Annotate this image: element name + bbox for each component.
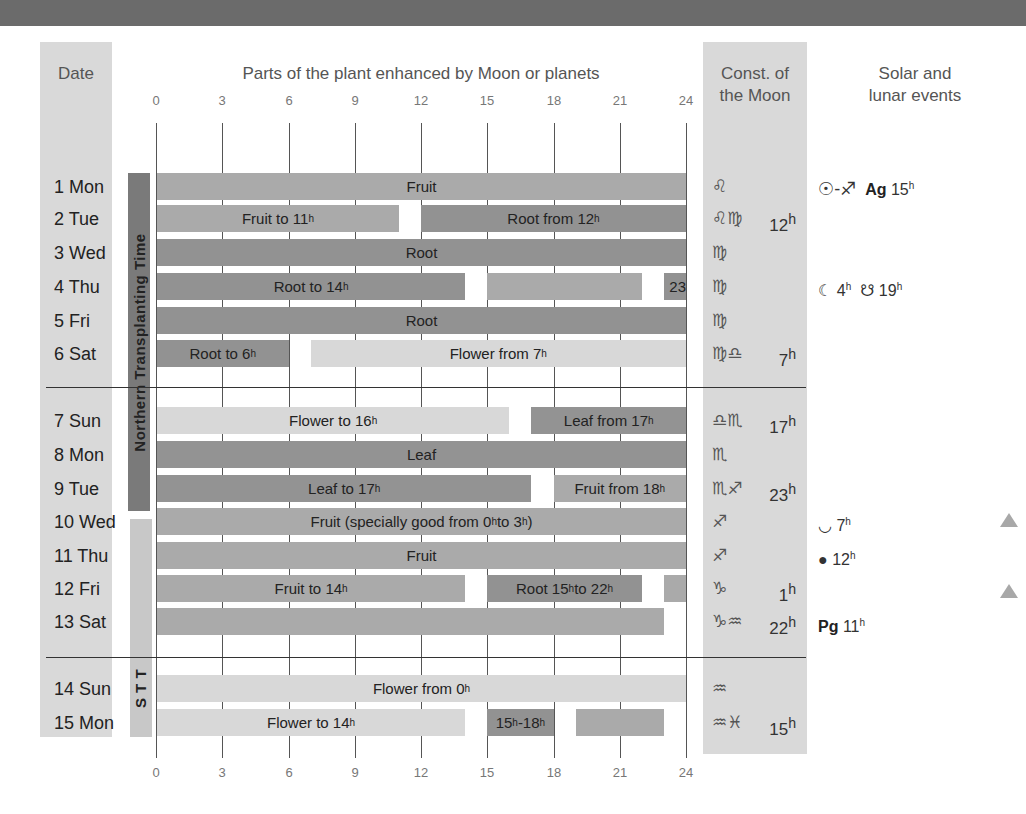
zodiac-sign-icon: ♍	[712, 277, 727, 297]
x-tick-label-bottom: 6	[274, 765, 304, 780]
northern-transplanting-label: Northern Transplanting Time	[131, 233, 148, 451]
constellation-change-time: 15h	[769, 713, 796, 740]
constellation-change-time: 17h	[769, 411, 796, 438]
perigee-pg-label: Pg	[818, 618, 838, 635]
date-label: 12 Fri	[54, 579, 100, 599]
grid-line	[686, 123, 687, 758]
bar-root: Root to 6h	[157, 340, 289, 367]
zodiac-sign-icon: ♏♐	[712, 479, 742, 506]
x-tick-label-top: 21	[605, 93, 635, 108]
date-label: 3 Wed	[54, 243, 106, 263]
events-header-line1: Solar and	[830, 63, 1000, 85]
x-tick-label-top: 15	[472, 93, 502, 108]
date-column-bg	[40, 42, 112, 737]
zodiac-sign-icon: ♎♏	[712, 411, 742, 438]
constellation-change-time: 12h	[769, 209, 796, 236]
stt-label: S T T	[133, 669, 150, 708]
bar-fruit: Fruit (specially good from 0h to 3h )	[157, 508, 686, 535]
zodiac-sign-icon: ♐	[712, 512, 727, 532]
date-label: 5 Fri	[54, 311, 90, 331]
bar-root: 15h-18h	[487, 709, 553, 736]
date-label: 14 Sun	[54, 679, 111, 699]
event-time: 12	[832, 551, 850, 568]
hour-sup: h	[850, 550, 856, 561]
date-label: 10 Wed	[54, 512, 116, 532]
x-tick-label-bottom: 15	[472, 765, 502, 780]
zodiac-sign-icon: ♍	[712, 243, 727, 263]
bar-fruit	[157, 608, 664, 635]
moon-constellation: ♑♒22h	[712, 612, 796, 639]
bar-leaf: Leaf	[157, 441, 686, 468]
x-tick-label-top: 9	[340, 93, 370, 108]
week-separator-line	[46, 657, 806, 658]
x-tick-label-top: 24	[671, 93, 701, 108]
moon-constellation: ♌♍12h	[712, 209, 796, 236]
moon-constellation: ♒	[712, 679, 796, 699]
bar-fruit: Fruit to 14h	[157, 575, 465, 602]
event-row-4: ☾ 4h ☋ 19h	[818, 277, 902, 301]
triangle-marker-icon	[1000, 513, 1018, 527]
zodiac-sign-icon: ♑	[712, 579, 727, 606]
zodiac-sign-icon: ♍	[712, 311, 727, 331]
x-tick-label-top: 12	[406, 93, 436, 108]
event-row-11: ● 12h	[818, 546, 855, 570]
moon-constellation: ♌	[712, 177, 796, 197]
bar-root: Root	[157, 307, 686, 334]
zodiac-sign-icon: ♏	[712, 445, 727, 465]
bar-root: Root from 12h	[421, 205, 686, 232]
triangle-marker-icon	[1000, 584, 1018, 598]
moon-constellation: ♏♐23h	[712, 479, 796, 506]
stt-period: S T T	[130, 519, 152, 737]
zodiac-sign-icon: ♑♒	[712, 612, 742, 639]
x-tick-label-bottom: 21	[605, 765, 635, 780]
moon-constellation: ♍	[712, 277, 796, 297]
moon-constellation: ♐	[712, 546, 796, 566]
moon-constellation: ♍♎7h	[712, 344, 796, 371]
bar-flower: Flower to 16h	[157, 407, 509, 434]
event-time: 15	[891, 181, 909, 198]
hour-sup: h	[897, 281, 903, 292]
date-label: 4 Thu	[54, 277, 100, 297]
date-label: 15 Mon	[54, 713, 114, 733]
zodiac-sign-icon: ♐	[712, 546, 727, 566]
moon-constellation: ♎♏17h	[712, 411, 796, 438]
zodiac-sign-icon: ♌♍	[712, 209, 742, 236]
events-header: Solar and lunar events	[830, 63, 1000, 107]
bar-fruit: Fruit from 18h	[554, 475, 687, 502]
bar-leaf: Leaf from 17h	[531, 407, 686, 434]
bar-root: 23	[664, 273, 686, 300]
zodiac-sign-icon: ♍♎	[712, 344, 742, 371]
moon-constellation: ♍	[712, 311, 796, 331]
date-label: 9 Tue	[54, 479, 99, 499]
date-label: 2 Tue	[54, 209, 99, 229]
date-label: 13 Sat	[54, 612, 106, 632]
last-quarter-moon-icon: ☾	[818, 282, 832, 299]
constellation-change-time: 23h	[769, 479, 796, 506]
bar-fruit	[664, 575, 686, 602]
hour-sup: h	[860, 617, 866, 628]
moon-constellation: ♑1h	[712, 579, 796, 606]
hour-sup: h	[909, 180, 915, 191]
bar-flower: Flower from 0h	[157, 675, 686, 702]
event-time: 11	[843, 618, 860, 635]
lunar-apogee-icon: ◡	[818, 517, 832, 534]
sun-sagittarius-icon: ☉-♐	[818, 179, 856, 199]
date-header: Date	[40, 63, 112, 85]
x-tick-label-bottom: 12	[406, 765, 436, 780]
const-header-line2: the Moon	[703, 85, 807, 107]
x-tick-label-top: 6	[274, 93, 304, 108]
x-tick-label-top: 3	[207, 93, 237, 108]
bar-fruit	[576, 709, 664, 736]
bar-fruit	[487, 273, 642, 300]
x-tick-label-bottom: 9	[340, 765, 370, 780]
week-separator-line	[46, 387, 806, 388]
bar-fruit: Fruit to 11h	[157, 205, 399, 232]
x-tick-label-top: 18	[539, 93, 569, 108]
const-column-bg	[703, 42, 807, 754]
constellation-change-time: 22h	[769, 612, 796, 639]
bar-root: Root to 14h	[157, 273, 465, 300]
descending-node-icon: ☋	[860, 282, 874, 299]
constellation-change-time: 1h	[779, 579, 796, 606]
events-header-line2: lunar events	[830, 85, 1000, 107]
bar-leaf: Leaf to 17h	[157, 475, 531, 502]
